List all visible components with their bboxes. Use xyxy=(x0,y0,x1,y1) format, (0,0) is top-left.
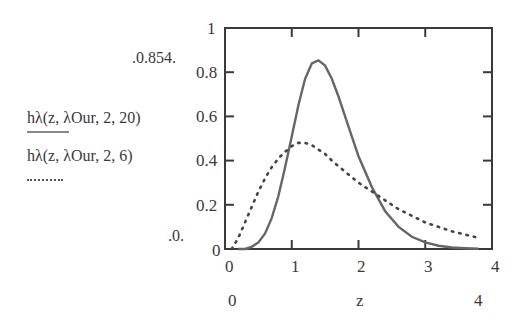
series-line-solid xyxy=(238,60,478,249)
axis-ticks xyxy=(225,28,492,249)
plot-area[interactable] xyxy=(0,0,525,334)
plot-frame xyxy=(225,28,492,249)
series-line-dotted xyxy=(232,143,479,249)
